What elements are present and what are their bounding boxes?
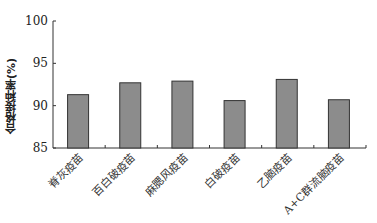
bar <box>328 100 349 148</box>
y-tick-label: 100 <box>25 14 48 28</box>
y-tick-label: 85 <box>33 141 48 155</box>
bar-chart: 859095100脊灰疫苗百白破疫苗麻腮风疫苗白破疫苗乙脑疫苗A+C群流脑疫苗 <box>0 0 377 223</box>
x-tick-label: 百白破疫苗 <box>90 150 139 199</box>
bar <box>224 101 245 148</box>
x-tick-label: 白破疫苗 <box>202 150 243 191</box>
x-tick-label: 乙脑疫苗 <box>254 150 295 191</box>
y-tick-label: 90 <box>33 99 48 113</box>
bar <box>172 81 193 148</box>
bar <box>68 95 89 148</box>
x-tick-label: 麻腮风疫苗 <box>142 150 191 199</box>
bar <box>276 79 297 148</box>
x-tick-label: 脊灰疫苗 <box>45 150 86 191</box>
bar <box>120 83 141 148</box>
y-tick-label: 95 <box>33 56 48 70</box>
